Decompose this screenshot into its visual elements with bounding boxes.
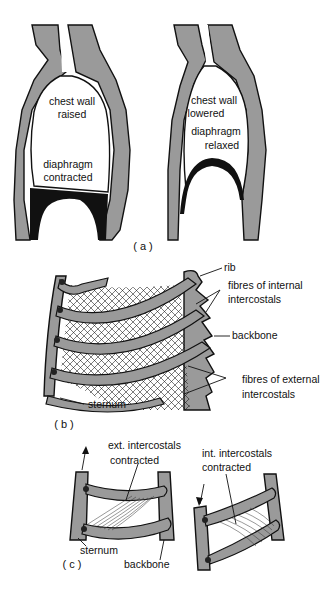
label-fibres-external-2: intercostals bbox=[242, 388, 295, 400]
label-fibres-internal-2: intercostals bbox=[228, 293, 281, 305]
label-ext-intercostals-2: contracted bbox=[110, 454, 159, 466]
panel-a-left-thorax-inspiration: chest wall raised diaphragm contracted bbox=[14, 25, 130, 240]
panel-a-right-thorax-expiration: chest wall lowered diaphragm relaxed bbox=[168, 25, 266, 240]
caption-panel-c: ( c ) bbox=[63, 558, 82, 570]
label-int-intercostals-2: contracted bbox=[202, 461, 251, 473]
label-fibres-external-1: fibres of external bbox=[242, 373, 320, 385]
caption-panel-a: ( a ) bbox=[133, 240, 153, 252]
label-chest-wall-raised-1: chest wall bbox=[49, 95, 95, 107]
label-diaphragm-relaxed-1: diaphragm bbox=[191, 125, 241, 137]
label-chest-wall-lowered-1: chest wall bbox=[191, 94, 237, 106]
label-fibres-internal-1: fibres of internal bbox=[228, 279, 303, 291]
arrow-down-icon bbox=[196, 497, 203, 506]
label-ext-intercostals-1: ext. intercostals bbox=[108, 439, 181, 451]
label-backbone-b: backbone bbox=[232, 329, 278, 341]
label-int-intercostals-1: int. intercostals bbox=[202, 447, 272, 459]
arrow-up-icon bbox=[82, 446, 89, 454]
panel-b-rib-cage-intercostals bbox=[44, 268, 230, 412]
backbone-shape bbox=[184, 271, 214, 410]
label-diaphragm-contracted-1: diaphragm bbox=[43, 158, 93, 170]
label-diaphragm-relaxed-2: relaxed bbox=[205, 139, 240, 151]
label-sternum-b: sternum bbox=[88, 398, 126, 410]
label-diaphragm-contracted-2: contracted bbox=[43, 171, 92, 183]
label-backbone-c: backbone bbox=[124, 558, 170, 570]
panel-c-right-internal-intercostals bbox=[194, 474, 284, 570]
respiration-diagram: chest wall raised diaphragm contracted c… bbox=[0, 0, 330, 594]
caption-panel-b: ( b ) bbox=[54, 418, 74, 430]
label-rib: rib bbox=[224, 261, 236, 273]
label-sternum-c: sternum bbox=[80, 544, 118, 556]
label-chest-wall-lowered-2: lowered bbox=[188, 107, 225, 119]
label-chest-wall-raised-2: raised bbox=[58, 108, 87, 120]
